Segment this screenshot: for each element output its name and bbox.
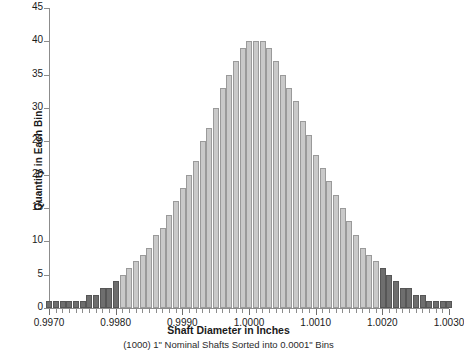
histogram-bar: [420, 295, 426, 308]
y-tick-label: 25: [32, 134, 43, 145]
histogram-bar: [106, 288, 112, 308]
x-tick-mark-minor: [409, 309, 410, 313]
histogram-bar: [153, 235, 159, 308]
x-tick-mark-minor: [222, 309, 223, 313]
x-tick-mark-minor: [89, 309, 90, 313]
histogram-bar: [366, 255, 372, 308]
histogram-bar: [280, 75, 286, 308]
histogram-bar: [306, 135, 312, 308]
x-tick-mark-minor: [169, 309, 170, 313]
x-tick-mark-minor: [142, 309, 143, 313]
histogram-bar: [200, 141, 206, 308]
x-tick-mark-minor: [162, 309, 163, 313]
x-tick-mark-minor: [202, 309, 203, 313]
histogram-bar: [440, 301, 446, 308]
x-tick-mark-minor: [109, 309, 110, 313]
histogram-bar: [73, 301, 79, 308]
histogram-bar: [333, 195, 339, 308]
histogram-bar: [373, 261, 379, 308]
histogram-bar: [226, 75, 232, 308]
histogram-bar: [426, 301, 432, 308]
x-tick-mark-minor: [302, 309, 303, 313]
y-tick-mark: [44, 208, 50, 209]
histogram-bar: [286, 88, 292, 308]
histogram-bar: [120, 275, 126, 308]
histogram-bar: [400, 288, 406, 308]
y-tick-mark: [44, 75, 50, 76]
x-tick-mark-minor: [209, 309, 210, 313]
histogram-bar: [273, 61, 279, 308]
x-tick-mark-minor: [436, 309, 437, 313]
x-tick-mark-minor: [256, 309, 257, 313]
x-tick-mark: [316, 309, 317, 315]
x-tick-mark-minor: [216, 309, 217, 313]
x-tick-mark: [449, 309, 450, 315]
histogram-bar: [93, 295, 99, 308]
histogram-bar: [346, 221, 352, 308]
y-tick-label: 35: [32, 68, 43, 79]
y-tick-mark: [44, 8, 50, 9]
y-tick-mark: [44, 141, 50, 142]
histogram-bar: [320, 168, 326, 308]
histogram-bar: [353, 235, 359, 308]
y-tick-mark: [44, 275, 50, 276]
histogram-bar: [86, 295, 92, 308]
y-tick-label: 20: [32, 168, 43, 179]
y-tick-label: 40: [32, 34, 43, 45]
histogram-bar: [313, 155, 319, 308]
y-axis-line: [49, 8, 50, 309]
histogram-bar: [213, 108, 219, 308]
x-tick-mark-minor: [422, 309, 423, 313]
y-tick-mark: [44, 108, 50, 109]
x-tick-mark-minor: [189, 309, 190, 313]
x-tick-mark-minor: [336, 309, 337, 313]
x-tick-mark-minor: [136, 309, 137, 313]
y-tick-label: 45: [32, 1, 43, 12]
x-tick-mark-minor: [82, 309, 83, 313]
x-tick-mark-minor: [349, 309, 350, 313]
x-tick-mark-minor: [96, 309, 97, 313]
x-tick-mark-minor: [442, 309, 443, 313]
histogram-bar: [413, 295, 419, 308]
x-tick-mark-minor: [176, 309, 177, 313]
x-tick-mark-minor: [262, 309, 263, 313]
y-tick-mark: [44, 41, 50, 42]
histogram-bar: [240, 48, 246, 308]
histogram-bar: [260, 41, 266, 308]
histogram-bar: [326, 181, 332, 308]
chart-subtitle: (1000) 1" Nominal Shafts Sorted into 0.0…: [0, 339, 457, 350]
histogram-bar: [293, 101, 299, 308]
histogram-bar: [166, 215, 172, 308]
y-tick-mark: [44, 175, 50, 176]
x-axis-title: Shaft Diameter in Inches: [0, 324, 457, 336]
x-tick-mark: [182, 309, 183, 315]
histogram-bar: [53, 301, 59, 308]
histogram-bar: [80, 301, 86, 308]
y-tick-label: 30: [32, 101, 43, 112]
x-tick-mark-minor: [69, 309, 70, 313]
histogram-bar: [406, 288, 412, 308]
histogram-bar: [180, 188, 186, 308]
histogram-bar: [360, 248, 366, 308]
x-tick-mark-minor: [229, 309, 230, 313]
histogram-bar: [393, 281, 399, 308]
histogram-bar: [60, 301, 66, 308]
histogram-bar: [300, 121, 306, 308]
histogram-bar: [160, 228, 166, 308]
x-tick-mark-minor: [342, 309, 343, 313]
histogram-bar: [133, 261, 139, 308]
x-tick-mark-minor: [242, 309, 243, 313]
histogram-bar: [206, 128, 212, 308]
histogram-bar: [380, 268, 386, 308]
x-tick-mark-minor: [369, 309, 370, 313]
histogram-bar: [193, 161, 199, 308]
histogram-bar: [173, 201, 179, 308]
x-tick-mark: [49, 309, 50, 315]
histogram-bar: [253, 41, 259, 308]
histogram-bar: [340, 208, 346, 308]
x-tick-mark-minor: [62, 309, 63, 313]
x-tick-mark-minor: [296, 309, 297, 313]
histogram-bar: [386, 275, 392, 308]
x-tick-mark-minor: [429, 309, 430, 313]
